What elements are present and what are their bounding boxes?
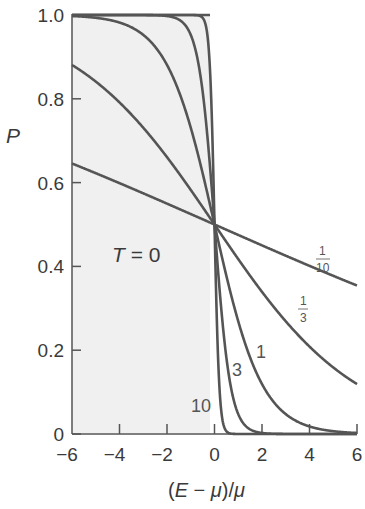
svg-text:3: 3 bbox=[300, 311, 307, 325]
curve-label-1: 1 bbox=[256, 342, 266, 362]
curve-label-one-third: 1 3 bbox=[298, 294, 308, 325]
y-tick-label: 0.8 bbox=[38, 89, 64, 110]
svg-text:1: 1 bbox=[300, 294, 307, 308]
curve-label-10: 10 bbox=[191, 396, 211, 416]
x-tick-label: 4 bbox=[304, 444, 315, 465]
svg-text:10: 10 bbox=[316, 261, 330, 275]
x-tick-label: −2 bbox=[151, 444, 173, 465]
svg-text:1: 1 bbox=[319, 244, 326, 258]
x-tick-label: 2 bbox=[257, 444, 268, 465]
fermi-dirac-chart: 00.20.40.60.81.0 −6−4−20246 P (E − μ)/μ … bbox=[0, 0, 365, 509]
y-tick-label: 0.4 bbox=[38, 256, 65, 277]
x-tick-label: −4 bbox=[104, 444, 126, 465]
curve-label-one-tenth: 1 10 bbox=[316, 244, 330, 275]
curve-label-3: 3 bbox=[232, 360, 242, 380]
y-tick-label: 0 bbox=[53, 424, 64, 445]
y-axis-label: P bbox=[6, 124, 20, 147]
x-axis-label: (E − μ)/μ bbox=[168, 479, 245, 501]
y-tick-label: 0.2 bbox=[38, 340, 64, 361]
y-tick-label: 1.0 bbox=[38, 5, 64, 26]
y-tick-label: 0.6 bbox=[38, 173, 64, 194]
x-tick-label: −6 bbox=[56, 444, 78, 465]
x-tick-label: 6 bbox=[352, 444, 363, 465]
t0-annotation: T = 0 bbox=[112, 243, 160, 266]
x-tick-label: 0 bbox=[209, 444, 220, 465]
